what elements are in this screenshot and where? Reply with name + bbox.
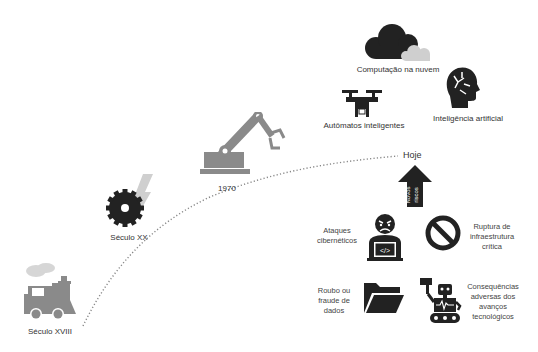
label-hoje: Hoje: [403, 150, 422, 160]
label-tech-consequences: Consequências adversas dos avanços tecno…: [462, 282, 524, 322]
label-ai: Inteligência artificial: [428, 114, 508, 123]
label-drone: Autômatos inteligentes: [322, 121, 406, 130]
tech-ai: [444, 66, 480, 108]
prohibited-icon: [425, 215, 461, 251]
label-seculo-xx: Século XX: [104, 233, 154, 242]
saw-blade-electric-icon: [105, 172, 155, 230]
folder-icon: [362, 281, 406, 315]
tech-drone: [340, 88, 384, 118]
label-data-theft: Roubo ou fraude de dados: [312, 286, 356, 316]
robotic-arm-icon: [200, 112, 290, 174]
risk-infrastructure: [425, 215, 461, 251]
milestone-1970: [200, 112, 290, 174]
risk-tech-consequences: [418, 276, 462, 324]
milestone-seculo-xx: [105, 172, 155, 230]
milestone-seculo-xviii: [18, 262, 82, 320]
ai-head-icon: [444, 66, 480, 108]
steam-train-icon: [18, 262, 82, 320]
label-cyberattacks: Ataques cibernéticos: [312, 226, 362, 246]
tech-cloud: [362, 22, 434, 62]
label-1970: 1970: [212, 184, 242, 193]
risk-data-theft: [362, 281, 406, 315]
svg-text:</>: </>: [380, 247, 390, 254]
hacker-icon: </>: [365, 213, 405, 263]
label-cloud: Computação na nuvem: [356, 65, 440, 74]
risk-cyberattacks: </>: [365, 213, 405, 263]
cloud-icon: [362, 22, 434, 62]
label-seculo-xviii: Século XVIII: [20, 327, 80, 336]
drone-icon: [340, 88, 384, 118]
robot-icon: [418, 276, 462, 324]
new-risks-label: Novos riscos: [404, 184, 426, 206]
label-infrastructure: Ruptura de infraestrutura crítica: [464, 222, 520, 252]
